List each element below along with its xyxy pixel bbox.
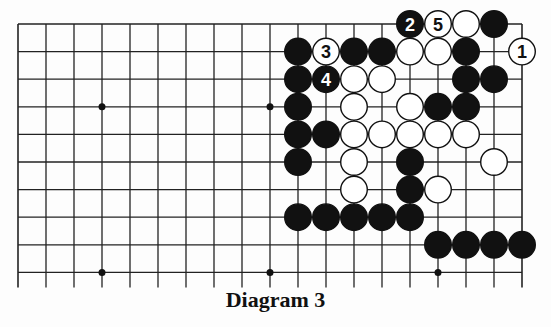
star-point bbox=[435, 269, 442, 276]
black-stone: 4 bbox=[313, 66, 340, 93]
star-point bbox=[99, 269, 106, 276]
black-stone bbox=[481, 232, 508, 259]
black-stone bbox=[397, 176, 424, 203]
black-stone bbox=[369, 38, 396, 65]
white-stone bbox=[453, 121, 480, 148]
star-point bbox=[267, 103, 274, 110]
white-stone bbox=[397, 121, 424, 148]
black-stone bbox=[425, 232, 452, 259]
white-stone bbox=[341, 176, 368, 203]
black-stone bbox=[369, 204, 396, 231]
black-stone: 2 bbox=[397, 11, 424, 38]
black-stone bbox=[285, 149, 312, 176]
white-stone bbox=[341, 121, 368, 148]
white-stone bbox=[481, 149, 508, 176]
white-stone bbox=[341, 149, 368, 176]
white-stone bbox=[369, 66, 396, 93]
white-stone bbox=[425, 176, 452, 203]
black-stone bbox=[509, 232, 536, 259]
star-point bbox=[99, 103, 106, 110]
move-number: 1 bbox=[517, 42, 527, 62]
go-board: 25314 bbox=[0, 0, 551, 295]
black-stone bbox=[425, 94, 452, 121]
white-stone bbox=[425, 38, 452, 65]
diagram-caption: Diagram 3 bbox=[0, 287, 551, 313]
black-stone bbox=[397, 204, 424, 231]
black-stone bbox=[453, 94, 480, 121]
white-stone bbox=[425, 121, 452, 148]
move-number: 3 bbox=[321, 42, 331, 62]
white-stone bbox=[341, 94, 368, 121]
white-stone: 5 bbox=[425, 11, 452, 38]
black-stone bbox=[285, 121, 312, 148]
black-stone bbox=[453, 66, 480, 93]
black-stone bbox=[285, 94, 312, 121]
black-stone bbox=[481, 66, 508, 93]
move-number: 4 bbox=[321, 70, 331, 90]
white-stone bbox=[397, 94, 424, 121]
black-stone bbox=[285, 204, 312, 231]
white-stone bbox=[397, 38, 424, 65]
black-stone bbox=[397, 149, 424, 176]
white-stone: 3 bbox=[313, 38, 340, 65]
move-number: 5 bbox=[433, 15, 443, 35]
white-stone bbox=[453, 11, 480, 38]
star-point bbox=[267, 269, 274, 276]
black-stone bbox=[341, 204, 368, 231]
white-stone bbox=[369, 121, 396, 148]
white-stone: 1 bbox=[509, 38, 536, 65]
black-stone bbox=[481, 11, 508, 38]
move-number: 2 bbox=[405, 15, 415, 35]
black-stone bbox=[313, 121, 340, 148]
black-stone bbox=[453, 38, 480, 65]
black-stone bbox=[285, 66, 312, 93]
white-stone bbox=[341, 66, 368, 93]
black-stone bbox=[341, 38, 368, 65]
black-stone bbox=[313, 204, 340, 231]
black-stone bbox=[453, 232, 480, 259]
black-stone bbox=[285, 38, 312, 65]
